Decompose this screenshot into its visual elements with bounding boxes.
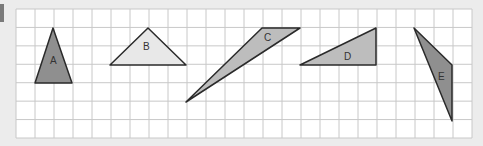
label-e: E [438,71,445,82]
label-b: B [143,41,150,52]
triangle-grid-figure: A B C D E [0,0,483,146]
label-a: A [50,55,57,66]
label-c: C [264,32,271,43]
label-d: D [344,51,351,62]
